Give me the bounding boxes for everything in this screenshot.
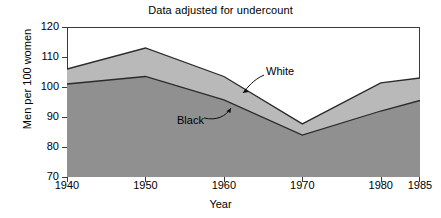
y-tick-mark bbox=[62, 117, 67, 118]
x-tick-mark bbox=[302, 177, 303, 182]
y-tick-label: 100 bbox=[33, 81, 59, 92]
chart-title: Data adjusted for undercount bbox=[0, 4, 441, 16]
y-tick-label: 110 bbox=[33, 51, 59, 62]
series-label-black: Black bbox=[177, 115, 204, 126]
y-tick-mark bbox=[62, 87, 67, 88]
y-tick-label: 80 bbox=[33, 141, 59, 152]
x-tick-mark bbox=[224, 177, 225, 182]
x-tick-mark bbox=[381, 177, 382, 182]
x-tick-mark bbox=[419, 177, 420, 182]
y-tick-mark bbox=[62, 27, 67, 28]
y-axis-label: Men per 100 women bbox=[21, 4, 35, 154]
x-tick-label: 1985 bbox=[400, 180, 440, 191]
y-tick-label: 120 bbox=[33, 21, 59, 32]
y-tick-mark bbox=[62, 147, 67, 148]
chart-container: Data adjusted for undercount 70809010011… bbox=[0, 0, 441, 218]
y-tick-label: 90 bbox=[33, 111, 59, 122]
x-tick-mark bbox=[67, 177, 68, 182]
plot-area bbox=[67, 27, 420, 177]
x-tick-mark bbox=[145, 177, 146, 182]
series-label-white: White bbox=[266, 66, 294, 77]
y-tick-mark bbox=[62, 57, 67, 58]
x-axis-label: Year bbox=[0, 198, 441, 210]
